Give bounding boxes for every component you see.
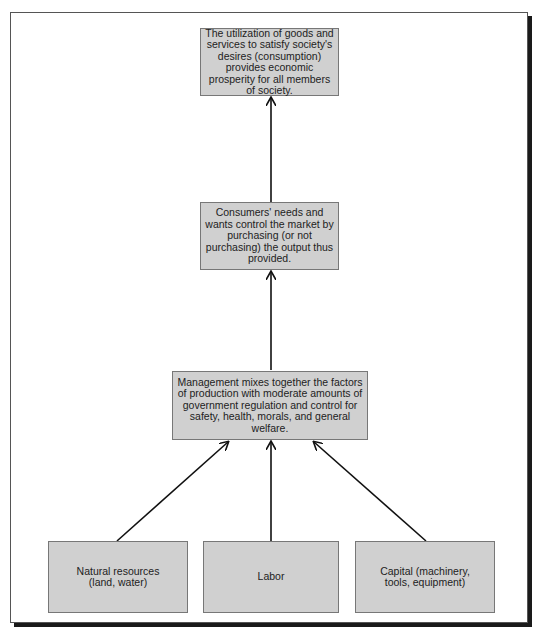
arrow-capital-to-management [314,442,426,541]
box-management-label: Management mixes together the factors of… [177,377,363,435]
box-consumers-label: Consumers' needs and wants control the m… [205,207,334,265]
arrow-natural-resources-to-management [117,442,228,541]
box-management: Management mixes together the factors of… [172,371,368,440]
box-labor-label: Labor [258,571,285,583]
box-natural-resources-label: Natural resources (land, water) [73,566,163,589]
box-natural-resources: Natural resources (land, water) [48,541,188,613]
box-capital-label: Capital (machinery, tools, equipment) [380,566,470,589]
box-capital: Capital (machinery, tools, equipment) [355,541,495,613]
box-consumers: Consumers' needs and wants control the m… [200,202,339,270]
box-labor: Labor [203,541,339,613]
box-consumption-label: The utilization of goods and services to… [205,28,334,97]
box-consumption: The utilization of goods and services to… [200,28,339,96]
